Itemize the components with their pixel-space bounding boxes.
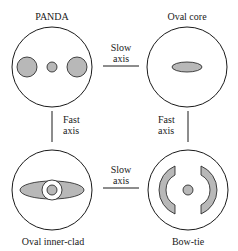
fast-axis-right-line2: axis bbox=[158, 125, 175, 136]
oval-inner-clad-fiber bbox=[12, 150, 92, 230]
oval-core-fiber bbox=[147, 27, 227, 107]
slow-axis-top-line2: axis bbox=[104, 53, 138, 64]
fast-axis-left-line1: Fast bbox=[63, 114, 80, 125]
label-panda: PANDA bbox=[35, 11, 69, 22]
fast-axis-left-line2: axis bbox=[63, 125, 80, 136]
bow-right bbox=[201, 166, 217, 214]
core bbox=[47, 62, 57, 72]
fast-axis-right-line1: Fast bbox=[158, 114, 175, 125]
stress-rod-left bbox=[17, 57, 37, 77]
label-oval-inner-clad: Oval inner-clad bbox=[22, 236, 84, 247]
core bbox=[47, 185, 57, 195]
fiber-diagram bbox=[0, 0, 238, 251]
bow-left bbox=[159, 166, 175, 214]
slow-axis-bottom-line2: axis bbox=[104, 175, 138, 186]
slow-axis-label-bottom: Slow axis bbox=[104, 164, 138, 186]
slow-axis-label-top: Slow axis bbox=[104, 42, 138, 64]
fast-axis-label-right: Fast axis bbox=[158, 114, 175, 136]
slow-axis-bottom-line1: Slow bbox=[104, 164, 138, 175]
slow-axis-top-line1: Slow bbox=[104, 42, 138, 53]
oval-core bbox=[172, 62, 202, 72]
label-oval-core: Oval core bbox=[167, 11, 206, 22]
panda-fiber bbox=[12, 27, 92, 107]
label-bow-tie: Bow-tie bbox=[172, 236, 204, 247]
bow-tie-fiber bbox=[148, 150, 228, 230]
stress-rod-right bbox=[67, 57, 87, 77]
core bbox=[183, 185, 193, 195]
fast-axis-label-left: Fast axis bbox=[63, 114, 80, 136]
